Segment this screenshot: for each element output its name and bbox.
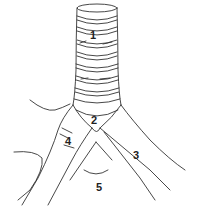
label-2: 2 (91, 115, 97, 126)
trachea-drawing (0, 0, 201, 210)
trachea-diagram: 1 2 3 4 5 (0, 0, 201, 210)
label-3: 3 (133, 150, 139, 161)
label-5: 5 (96, 182, 102, 193)
label-1: 1 (90, 30, 96, 41)
label-4: 4 (65, 136, 71, 147)
